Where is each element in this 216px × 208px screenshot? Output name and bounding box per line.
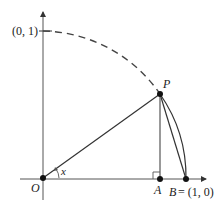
dashed-arc: [43, 31, 160, 94]
label-y-tick: (0, 1): [12, 24, 38, 38]
point-o: [40, 175, 46, 181]
label-b-coord: = (1, 0): [178, 185, 214, 199]
point-p: [157, 91, 163, 97]
label-origin: O: [31, 181, 40, 195]
label-p: P: [162, 77, 171, 91]
label-b: B: [169, 185, 177, 199]
point-a: [157, 176, 163, 182]
label-angle: x: [60, 165, 66, 177]
chord-pb: [160, 94, 186, 179]
point-b: [183, 176, 189, 182]
label-a: A: [153, 183, 162, 197]
unit-circle-diagram: (0, 1) O x P A B = (1, 0): [0, 0, 216, 208]
